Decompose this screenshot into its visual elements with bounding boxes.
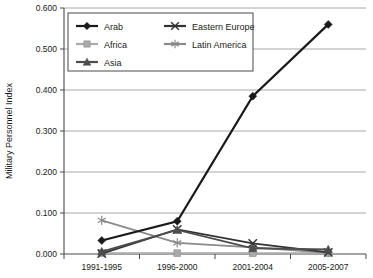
y-tick-label: 0.300 [36, 126, 58, 136]
x-tick-label: 1996-2000 [157, 262, 198, 272]
y-tick-label: 0.100 [36, 208, 58, 218]
legend-item-label: Arab [104, 22, 123, 32]
legend-item-label: Latin America [192, 40, 247, 50]
series-line [102, 230, 329, 252]
y-tick-label: 0.500 [36, 44, 58, 54]
legend-item-label: Asia [104, 58, 122, 68]
y-tick-label: 0.600 [36, 3, 58, 13]
x-tick-label: 1991-1995 [81, 262, 122, 272]
y-tick-label: 0.400 [36, 85, 58, 95]
legend-item-label: Eastern Europe [192, 22, 255, 32]
legend: ArabEastern EuropeAfricaLatin AmericaAsi… [68, 13, 255, 71]
x-tick-label: 2005-2007 [308, 262, 349, 272]
y-axis-title: Military Personnel Index [4, 82, 14, 179]
x-axis: 1991-19951996-20002001-20042005-2007 [64, 254, 366, 272]
y-axis: 0.0000.1000.2000.3000.4000.5000.600 [36, 3, 64, 259]
legend-item-label: Africa [104, 40, 127, 50]
chart-figure: 0.0000.1000.2000.3000.4000.5000.6001991-… [0, 0, 373, 278]
marker-diamond [98, 236, 106, 244]
y-tick-label: 0.200 [36, 167, 58, 177]
y-tick-label: 0.000 [36, 249, 58, 259]
marker-square [84, 41, 90, 47]
marker-square [174, 250, 181, 257]
x-tick-label: 2001-2004 [232, 262, 273, 272]
line-chart: 0.0000.1000.2000.3000.4000.5000.6001991-… [0, 0, 373, 278]
